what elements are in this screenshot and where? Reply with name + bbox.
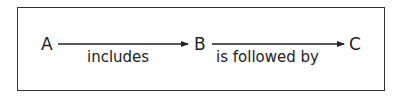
node-a: A <box>41 36 53 53</box>
node-c: C <box>349 36 361 53</box>
edge-b-c-label: is followed by <box>216 50 319 65</box>
node-b: B <box>194 36 206 53</box>
edge-a-b-label: includes <box>87 50 149 65</box>
